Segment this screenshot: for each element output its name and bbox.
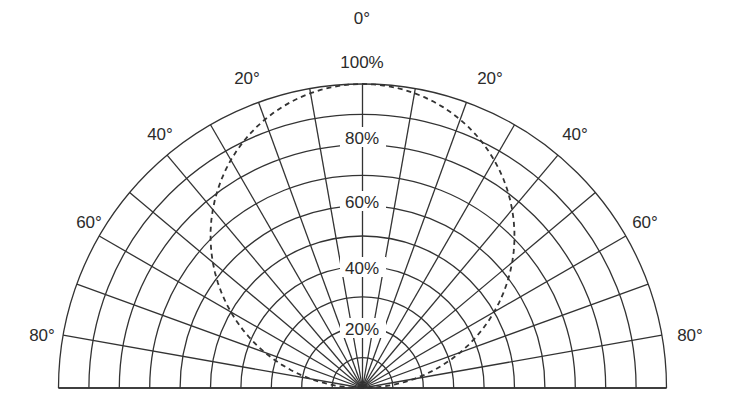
angle-label-right-80: 80° — [677, 326, 703, 345]
angle-label-left-40: 40° — [147, 125, 173, 144]
radial-label-40: 40% — [345, 259, 379, 278]
radial-label-20: 20% — [345, 320, 379, 339]
angle-label-left-20: 20° — [234, 69, 260, 88]
angle-label-right-20: 20° — [477, 69, 503, 88]
angle-label-left-60: 60° — [76, 213, 102, 232]
radial-label-100: 100% — [340, 53, 383, 72]
angle-label-right-60: 60° — [632, 213, 658, 232]
angle-label-0: 0° — [354, 9, 370, 28]
angle-label-right-40: 40° — [562, 125, 588, 144]
radial-label-60: 60% — [345, 193, 379, 212]
radial-label-80: 80% — [345, 129, 379, 148]
angle-label-left-80: 80° — [29, 326, 55, 345]
axis-labels: 0° 100% 20° 40° 60° 80° 20° 40° 60° 80° — [29, 9, 703, 345]
polar-chart: 0° 100% 20° 40° 60° 80° 20° 40° 60° 80° … — [0, 0, 731, 409]
